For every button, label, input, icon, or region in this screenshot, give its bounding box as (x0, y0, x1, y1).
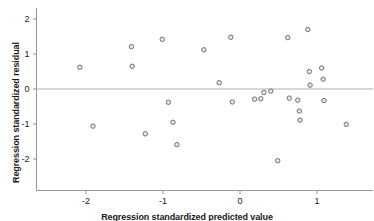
data-point (230, 100, 234, 104)
data-point (319, 66, 323, 70)
x-axis-tick-label: 1 (314, 196, 319, 206)
y-axis-tick-label: 2 (24, 14, 29, 24)
data-point (287, 96, 291, 100)
data-point (229, 35, 233, 39)
data-point (160, 37, 164, 41)
data-point (307, 69, 311, 73)
data-point (321, 77, 325, 81)
scatter-plot-figure: Regression standardized residual 210-1-2… (0, 0, 374, 221)
data-point (130, 64, 134, 68)
x-axis-tick-label: 0 (237, 196, 242, 206)
plot-canvas: 210-1-2-2-101 (0, 0, 374, 221)
data-point (202, 48, 206, 52)
data-point (129, 44, 133, 48)
data-point (252, 97, 256, 101)
x-axis-title: Regression standardized predicted value (0, 212, 374, 221)
x-axis-tick-label: -1 (159, 196, 167, 206)
data-point-series (78, 27, 349, 163)
y-axis-tick-label: -2 (21, 154, 29, 164)
data-point (143, 132, 147, 136)
data-point (91, 124, 95, 128)
data-point (269, 89, 273, 93)
data-point (259, 97, 263, 101)
data-point (276, 159, 280, 163)
data-point (344, 122, 348, 126)
data-point (306, 27, 310, 31)
data-point (175, 142, 179, 146)
data-point (308, 83, 312, 87)
data-point (286, 35, 290, 39)
data-point (322, 98, 326, 102)
x-axis-tick-label: -2 (82, 196, 90, 206)
data-point (297, 109, 301, 113)
data-point (217, 81, 221, 85)
data-point (166, 100, 170, 104)
data-point (171, 120, 175, 124)
y-axis-tick-label: -1 (21, 119, 29, 129)
data-point (298, 118, 302, 122)
data-point (262, 90, 266, 94)
y-axis-tick-label: 1 (24, 49, 29, 59)
data-point (78, 65, 82, 69)
data-point (296, 98, 300, 102)
y-axis-tick-label: 0 (24, 84, 29, 94)
